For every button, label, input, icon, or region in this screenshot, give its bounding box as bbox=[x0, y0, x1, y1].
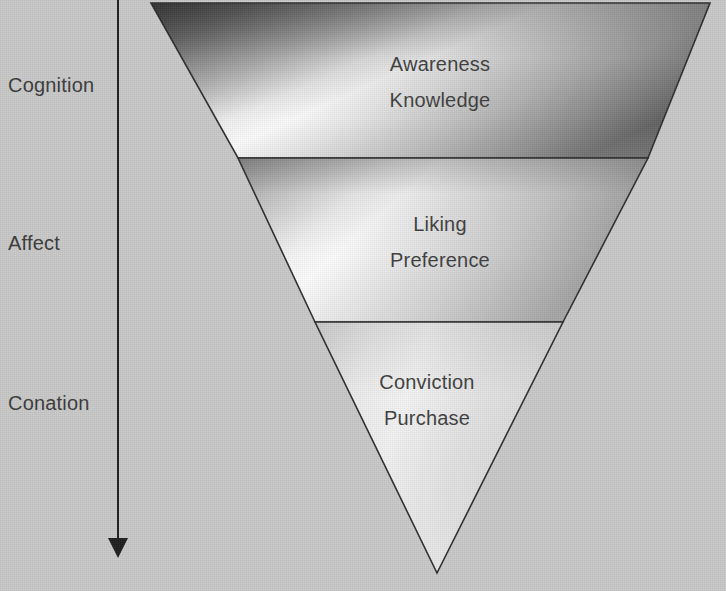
funnel-tier-cognition-line-2: Knowledge bbox=[330, 90, 550, 110]
funnel-tier-affect-line-2: Preference bbox=[330, 250, 550, 270]
funnel-tier-conation-shading bbox=[315, 322, 563, 573]
funnel-tier-cognition-line-1: Awareness bbox=[330, 54, 550, 74]
funnel-diagram-canvas: Cognition Affect Conation Awareness Know… bbox=[0, 0, 726, 591]
stage-label-affect: Affect bbox=[8, 232, 60, 255]
stage-label-conation: Conation bbox=[8, 392, 90, 415]
funnel-tier-conation-line-1: Conviction bbox=[317, 372, 537, 392]
funnel-tier-conation[interactable] bbox=[315, 322, 563, 573]
downward-progression-arrow bbox=[108, 0, 128, 558]
arrow-head-icon bbox=[108, 538, 128, 558]
funnel-tier-conation-text: Conviction Purchase bbox=[317, 372, 537, 428]
funnel-tier-cognition-text: Awareness Knowledge bbox=[330, 54, 550, 110]
funnel-tier-affect-text: Liking Preference bbox=[330, 214, 550, 270]
stage-label-cognition: Cognition bbox=[8, 74, 94, 97]
funnel-tier-conation-line-2: Purchase bbox=[317, 408, 537, 428]
funnel-tier-affect-line-1: Liking bbox=[330, 214, 550, 234]
